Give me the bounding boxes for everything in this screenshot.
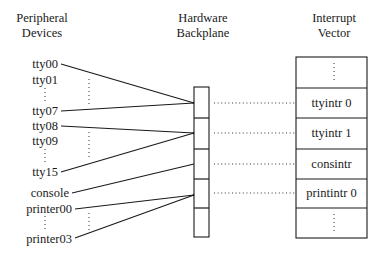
device-list: tty00 tty01 tty07 tty08 tty09 tty15 cons… [26, 57, 72, 246]
device-connections [61, 64, 195, 238]
vector-entry-consintr: consintr [311, 157, 352, 171]
connection-tty07 [61, 103, 194, 111]
header-hardware-backplane: Hardware Backplane [177, 11, 230, 40]
vector-mappings [214, 103, 296, 193]
connection-tty08 [61, 126, 194, 133]
device-label-printer00: printer00 [26, 202, 72, 216]
header-vector-line2: Vector [318, 26, 351, 40]
vector-entry-ttyintr0: ttyintr 0 [312, 96, 352, 110]
header-backplane-line1: Hardware [178, 11, 228, 25]
device-label-tty09: tty09 [32, 134, 58, 148]
backplane-frame [194, 87, 209, 237]
device-label-printer03: printer03 [26, 232, 72, 246]
connection-console [72, 164, 194, 193]
interrupt-mapping-diagram: Peripheral Devices Hardware Backplane In… [0, 0, 384, 255]
header-backplane-line2: Backplane [177, 26, 230, 40]
device-label-tty15: tty15 [32, 165, 58, 179]
device-label-console: console [31, 186, 70, 200]
header-interrupt-vector: Interrupt Vector [312, 11, 356, 40]
connection-tty00 [61, 64, 194, 103]
interrupt-vector-table: ttyintr 0 ttyintr 1 consintr printintr 0 [296, 57, 367, 238]
header-devices-line2: Devices [22, 26, 62, 40]
vector-frame [296, 57, 367, 238]
header-peripheral-devices: Peripheral Devices [16, 11, 68, 40]
connection-tty15 [61, 133, 194, 172]
hardware-backplane [194, 87, 209, 237]
header-devices-line1: Peripheral [16, 11, 68, 25]
device-label-tty01: tty01 [32, 73, 58, 87]
vector-entry-printintr0: printintr 0 [306, 186, 356, 200]
header-vector-line1: Interrupt [312, 11, 356, 25]
device-label-tty07: tty07 [32, 104, 58, 118]
device-label-tty00: tty00 [32, 57, 58, 71]
vector-entry-ttyintr1: ttyintr 1 [312, 126, 352, 140]
device-label-tty08: tty08 [32, 119, 58, 133]
